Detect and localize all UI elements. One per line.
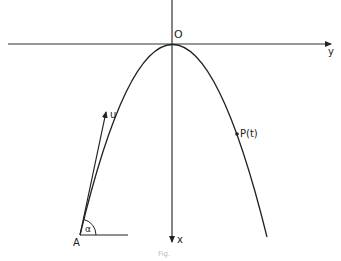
- angle-label: α: [85, 225, 91, 234]
- origin-label: O: [174, 29, 183, 40]
- x-axis-label: x: [177, 235, 183, 245]
- point-p-label: P(t): [240, 129, 258, 139]
- point-p-marker: [235, 132, 239, 136]
- figure-caption: Fig.: [158, 251, 170, 258]
- launch-point-label: A: [73, 238, 80, 248]
- projectile-diagram: [0, 0, 341, 261]
- velocity-vector-u: [80, 112, 106, 235]
- y-axis-label: y: [328, 47, 334, 57]
- trajectory-parabola: [80, 44, 267, 237]
- velocity-label: u: [110, 110, 116, 120]
